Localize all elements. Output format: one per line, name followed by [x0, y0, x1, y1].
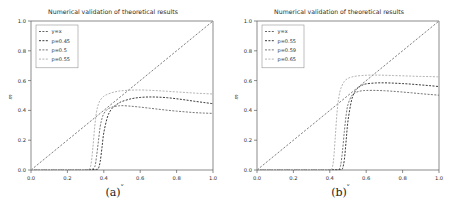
chart-b-ytick-4: 0.8 — [244, 48, 252, 54]
chart-b-xtick-1: 0.2 — [289, 175, 297, 181]
chart-b-ytick-2: 0.4 — [244, 107, 253, 113]
chart-a-xtick-3: 0.6 — [136, 175, 144, 181]
panel-a-caption: (a) — [0, 186, 226, 199]
chart-a-ytick-1: 0.2 — [18, 137, 26, 143]
chart-b-ytick-1: 0.2 — [244, 137, 252, 143]
chart-a-legend-label-2[interactable]: p=0.5 — [52, 47, 67, 54]
chart-a-legend-label-0[interactable]: y=x — [52, 28, 62, 35]
chart-a-background — [0, 0, 226, 186]
chart-b-ytick-5: 1.0 — [244, 18, 252, 24]
chart-b-xtick-3: 0.6 — [362, 175, 370, 181]
chart-a-ytick-0: 0.0 — [18, 167, 26, 173]
chart-a-xtick-4: 0.8 — [172, 175, 180, 181]
chart-b-legend-label-1[interactable]: p=0.55 — [278, 38, 297, 45]
chart-b-legend-label-0[interactable]: y=x — [278, 28, 288, 35]
chart-b-ytick-0: 0.0 — [244, 167, 252, 173]
chart-a-ytick-4: 0.8 — [18, 48, 26, 54]
chart-a-title: Numerical validation of theoretical resu… — [48, 8, 178, 15]
chart-a-xtick-1: 0.2 — [63, 175, 71, 181]
chart-a-legend[interactable]: y=xp=0.45p=0.5p=0.55 — [36, 25, 78, 68]
chart-b-xtick-2: 0.4 — [326, 175, 335, 181]
chart-a-legend-label-1[interactable]: p=0.45 — [52, 38, 71, 45]
chart-b-legend[interactable]: y=xp=0.55p=0.59p=0.65 — [262, 25, 304, 68]
chart-a-legend-label-3[interactable]: p=0.55 — [52, 56, 71, 63]
chart-a-ytick-2: 0.4 — [18, 107, 27, 113]
chart-b-legend-label-2[interactable]: p=0.59 — [278, 47, 297, 54]
chart-a-ylabel: m — [7, 94, 13, 99]
panel-a: Numerical validation of theoretical resu… — [0, 0, 226, 210]
chart-a-xtick-5: 1.0 — [209, 175, 217, 181]
chart-b-xtick-0: 0.0 — [253, 175, 261, 181]
chart-a-svg: Numerical validation of theoretical resu… — [0, 0, 226, 186]
panel-b: Numerical validation of theoretical resu… — [226, 0, 452, 210]
chart-b-title: Numerical validation of theoretical resu… — [274, 8, 404, 15]
chart-b-ytick-3: 0.6 — [244, 78, 252, 84]
chart-b-xtick-4: 0.8 — [398, 175, 406, 181]
chart-b-legend-label-3[interactable]: p=0.65 — [278, 56, 297, 63]
chart-a-xtick-0: 0.0 — [27, 175, 35, 181]
chart-a-ytick-5: 1.0 — [18, 18, 26, 24]
panel-b-caption: (b) — [226, 186, 452, 199]
figure-container: Numerical validation of theoretical resu… — [0, 0, 452, 210]
chart-b-svg: Numerical validation of theoretical resu… — [226, 0, 452, 186]
chart-b-xtick-5: 1.0 — [435, 175, 443, 181]
chart-b-ylabel: m — [233, 94, 239, 99]
chart-a-ytick-3: 0.6 — [18, 78, 26, 84]
chart-a-xtick-2: 0.4 — [100, 175, 109, 181]
